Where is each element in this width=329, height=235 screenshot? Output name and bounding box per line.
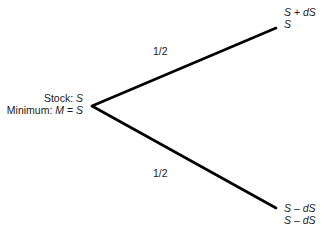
down-probability-label: 1/2: [153, 167, 168, 179]
down-node-label: S – dS S – dS: [284, 202, 316, 226]
down-minimum-label: S – dS: [284, 214, 316, 226]
root-stock-label: Stock: S: [7, 92, 83, 104]
up-probability-label: 1/2: [153, 45, 168, 57]
up-branch-line: [92, 28, 276, 106]
minimum-var: M: [55, 104, 64, 116]
minimum-rhs: S: [76, 104, 83, 116]
down-stock-op: –: [291, 202, 303, 214]
up-node-label: S + dS S: [284, 6, 316, 30]
minimum-prefix: Minimum:: [7, 104, 55, 116]
up-stock-b: dS: [303, 6, 316, 18]
minimum-eq: =: [64, 104, 76, 116]
root-minimum-label: Minimum: M = S: [7, 104, 83, 116]
tree-lines: [0, 0, 329, 235]
up-stock-a: S: [284, 6, 291, 18]
down-stock-a: S: [284, 202, 291, 214]
down-minimum-op: –: [291, 214, 303, 226]
up-minimum-label: S: [284, 18, 316, 30]
up-stock-label: S + dS: [284, 6, 316, 18]
stock-var: S: [76, 92, 83, 104]
down-minimum-b: dS: [303, 214, 316, 226]
down-stock-label: S – dS: [284, 202, 316, 214]
down-minimum-a: S: [284, 214, 291, 226]
down-branch-line: [92, 106, 276, 208]
up-stock-op: +: [291, 6, 303, 18]
up-minimum-a: S: [284, 18, 291, 30]
root-node-label: Stock: S Minimum: M = S: [7, 92, 83, 116]
stock-prefix: Stock:: [44, 92, 76, 104]
down-stock-b: dS: [303, 202, 316, 214]
